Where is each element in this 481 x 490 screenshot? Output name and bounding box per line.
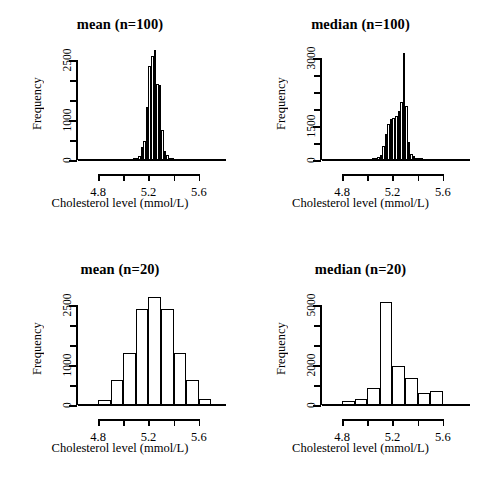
y-axis-title: Frequency — [30, 293, 45, 405]
y-axis-tick-label: 2000 — [305, 365, 317, 388]
x-axis: 4.85.25.6 — [332, 174, 458, 175]
plot-area: 010002500 4.85.25.6 — [88, 293, 214, 405]
y-axis-tick-label: 2500 — [61, 60, 73, 83]
x-axis-tick — [148, 174, 150, 181]
x-axis-title: Cholesterol level (mmol/L) — [240, 441, 481, 456]
y-axis-tick-label: 1500 — [305, 126, 317, 149]
y-axis: 015003000 — [320, 44, 321, 160]
x-axis-title: Cholesterol level (mmol/L) — [0, 196, 240, 211]
x-axis-tick — [367, 174, 369, 181]
y-axis: 010002500 — [76, 289, 77, 405]
y-axis-tick-label: 5000 — [305, 305, 317, 328]
panel-median-n20: median (n=20) Frequency 020005000 4.85.2… — [240, 245, 481, 490]
baseline-rule — [322, 404, 470, 406]
x-axis-tick — [392, 174, 394, 181]
histogram-bar — [367, 388, 380, 405]
histogram-bar — [136, 309, 149, 405]
x-axis: 4.85.25.6 — [88, 174, 214, 175]
x-axis-tick — [367, 419, 369, 426]
x-axis: 4.85.25.6 — [332, 419, 458, 420]
y-axis-tick — [70, 345, 77, 347]
y-axis-title: Frequency — [274, 293, 289, 405]
histogram-bar — [148, 297, 161, 405]
x-axis-tick — [392, 419, 394, 426]
baseline-rule — [78, 404, 226, 406]
baseline-rule — [322, 159, 470, 161]
y-axis-tick-label: 0 — [61, 160, 73, 166]
histogram-figure: mean (n=100) Frequency 010002500 4.85.25… — [0, 0, 481, 490]
panel-title: median (n=100) — [240, 16, 481, 33]
histogram-bar — [380, 302, 393, 405]
x-axis-tick — [418, 174, 420, 181]
y-axis-title: Frequency — [274, 48, 289, 160]
panel-title: mean (n=20) — [0, 261, 240, 278]
panel-mean-n100: mean (n=100) Frequency 010002500 4.85.25… — [0, 0, 240, 245]
x-axis: 4.85.25.6 — [88, 419, 214, 420]
x-axis-title: Cholesterol level (mmol/L) — [240, 196, 481, 211]
x-axis-tick — [98, 419, 100, 426]
histogram-bar — [186, 380, 199, 405]
panel-title: median (n=20) — [240, 261, 481, 278]
plot-area: 015003000 4.85.25.6 — [332, 48, 458, 160]
y-axis-tick-label: 2500 — [61, 305, 73, 328]
y-axis-tick — [314, 92, 321, 94]
x-axis-tick — [443, 419, 445, 426]
histogram-bar — [123, 353, 136, 405]
y-axis-tick-label: 0 — [305, 160, 317, 166]
y-axis-line — [76, 305, 78, 405]
histogram-bars — [332, 48, 458, 160]
y-axis: 010002500 — [76, 44, 77, 160]
plot-area: 020005000 4.85.25.6 — [332, 293, 458, 405]
histogram-bars — [88, 48, 214, 160]
histogram-bars — [88, 293, 214, 405]
plot-area: 010002500 4.85.25.6 — [88, 48, 214, 160]
y-axis-tick-label: 0 — [305, 405, 317, 411]
panel-title: mean (n=100) — [0, 16, 240, 33]
histogram-bars — [332, 293, 458, 405]
y-axis-tick — [314, 109, 321, 111]
x-axis-tick — [342, 419, 344, 426]
x-axis-tick — [199, 174, 201, 181]
x-axis-tick — [174, 419, 176, 426]
y-axis-line — [76, 60, 78, 160]
y-axis: 020005000 — [320, 289, 321, 405]
x-axis-tick — [148, 419, 150, 426]
histogram-bar — [174, 353, 187, 405]
x-axis-tick — [418, 419, 420, 426]
y-axis-tick — [70, 100, 77, 102]
panel-mean-n20: mean (n=20) Frequency 010002500 4.85.25.… — [0, 245, 240, 490]
baseline-rule — [78, 159, 226, 161]
panel-median-n100: median (n=100) Frequency 015003000 4.85.… — [240, 0, 481, 245]
x-axis-title: Cholesterol level (mmol/L) — [0, 441, 240, 456]
y-axis-tick — [314, 345, 321, 347]
histogram-bar — [111, 380, 124, 405]
histogram-bar — [405, 378, 418, 405]
x-axis-tick — [342, 174, 344, 181]
histogram-bar — [161, 309, 174, 405]
x-axis-tick — [174, 174, 176, 181]
y-axis-tick-label: 3000 — [305, 58, 317, 81]
y-axis-tick-label: 1000 — [61, 365, 73, 388]
x-axis-tick — [123, 419, 125, 426]
x-axis-tick — [199, 419, 201, 426]
histogram-bar — [392, 366, 405, 405]
x-axis-tick — [123, 174, 125, 181]
x-axis-tick — [98, 174, 100, 181]
y-axis-line — [320, 305, 322, 405]
y-axis-tick-label: 0 — [61, 405, 73, 411]
x-axis-tick — [443, 174, 445, 181]
y-axis-title: Frequency — [30, 48, 45, 160]
y-axis-tick-label: 1000 — [61, 120, 73, 143]
